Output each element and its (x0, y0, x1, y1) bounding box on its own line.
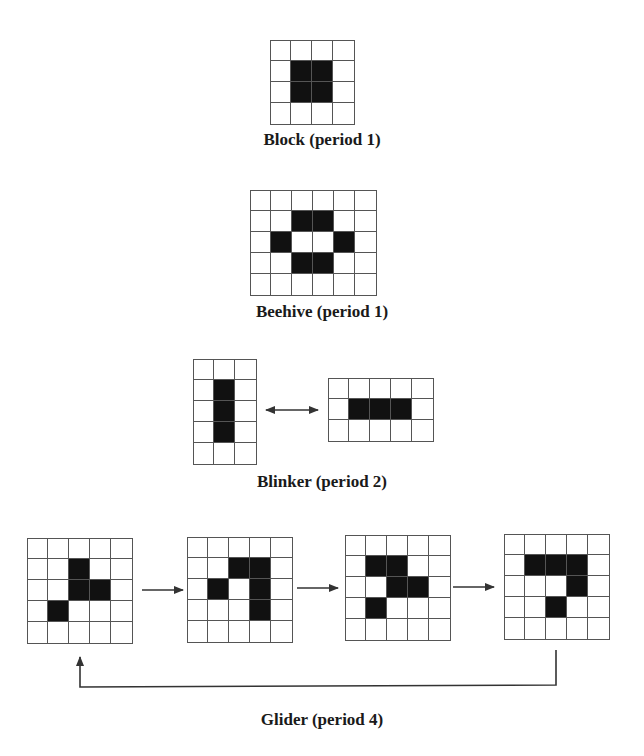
arrows-layer (0, 0, 644, 756)
loop-back-arrow (80, 650, 556, 687)
